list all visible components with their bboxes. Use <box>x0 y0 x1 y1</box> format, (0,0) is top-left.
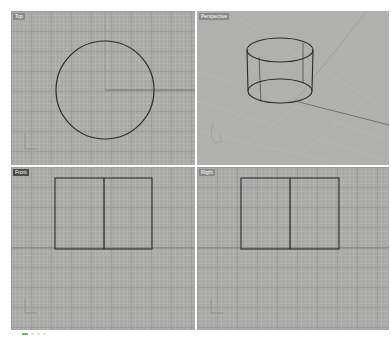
world-axes-icon <box>211 299 223 313</box>
front-view-geometry <box>11 167 195 330</box>
viewport-perspective[interactable]: Perspective <box>197 11 389 165</box>
top-view-geometry <box>11 11 195 165</box>
cylinder-front-outline <box>55 178 152 249</box>
world-axes-icon <box>25 133 37 149</box>
right-view-geometry <box>197 167 389 330</box>
viewport-front[interactable]: Front <box>11 167 195 330</box>
viewport-top[interactable]: Top <box>11 11 195 165</box>
perspective-view-geometry <box>197 11 389 165</box>
world-axes-icon <box>25 299 37 313</box>
viewport-right[interactable]: Right <box>197 167 389 330</box>
world-axes-icon <box>211 123 223 143</box>
cylinder-right-outline <box>241 178 339 249</box>
cylinder-surface <box>247 38 313 103</box>
osnap-status-icon[interactable] <box>22 333 62 335</box>
